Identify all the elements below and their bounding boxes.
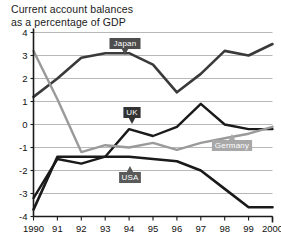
x-tick-label: 96	[172, 223, 183, 234]
callout-germany: Germany	[212, 134, 252, 151]
y-tick-label: 1	[22, 96, 27, 107]
series-line-usa	[34, 157, 273, 210]
callout-label: Germany	[215, 141, 249, 150]
x-tick-label: 2000	[262, 223, 281, 234]
callout-label: UK	[126, 108, 138, 117]
series-callouts-group: JapanUKGermanyUSA	[110, 38, 253, 183]
series-line-japan	[34, 44, 273, 97]
x-tick-label: 97	[196, 223, 207, 234]
y-tick-label: -1	[19, 142, 27, 153]
y-tick-label: 0	[22, 119, 27, 130]
x-tick-label: 99	[243, 223, 254, 234]
x-tick-label: 91	[52, 223, 63, 234]
callout-pointer	[129, 118, 135, 124]
y-tick-label: 3	[22, 50, 27, 61]
x-tick-label: 93	[100, 223, 111, 234]
x-tick-label: 1990	[23, 223, 44, 234]
y-tick-label: 4	[22, 27, 27, 38]
y-tick-label: -4	[19, 211, 27, 222]
x-tick-label: 95	[148, 223, 159, 234]
x-axis-tick-labels: 19909192939495969798992000	[23, 223, 281, 234]
callout-uk: UK	[123, 107, 140, 124]
callout-label: Japan	[114, 39, 137, 48]
y-tick-label: 2	[22, 73, 27, 84]
x-tick-label: 98	[219, 223, 230, 234]
callout-usa: USA	[119, 166, 141, 183]
series-group	[34, 44, 273, 210]
line-chart-plot: 43210-1-2-3-4 19909192939495969798992000…	[0, 0, 281, 242]
y-tick-label: -3	[19, 188, 27, 199]
y-axis-tick-labels: 43210-1-2-3-4	[19, 27, 27, 222]
chart-figure: Current account balances as a percentage…	[0, 0, 281, 242]
x-tick-label: 92	[76, 223, 87, 234]
callout-label: USA	[121, 173, 139, 182]
callout-pointer	[127, 166, 133, 172]
y-tick-label: -2	[19, 165, 27, 176]
x-tick-label: 94	[124, 223, 135, 234]
